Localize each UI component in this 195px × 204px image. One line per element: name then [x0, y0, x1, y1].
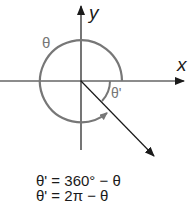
formula-degrees: θ' = 360° − θ	[36, 173, 121, 188]
reference-angle-diagram: y x θ θ' θ' = 360° − θ θ' = 2π − θ	[0, 0, 195, 204]
y-axis-label: y	[89, 2, 99, 24]
theta-label: θ	[42, 34, 50, 51]
reference-angle-label: θ'	[111, 85, 121, 101]
x-axis-label: x	[177, 54, 187, 76]
reference-angle-arc	[102, 81, 110, 101]
formula-radians: θ' = 2π − θ	[36, 188, 108, 203]
